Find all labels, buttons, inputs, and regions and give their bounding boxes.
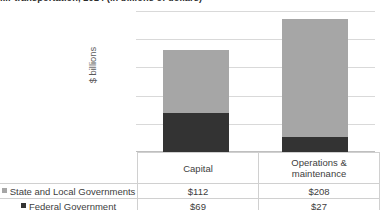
bar-2[interactable] [282, 19, 348, 152]
bar-segment[interactable] [163, 113, 229, 152]
data-table: CapitalOperations &maintenance State and… [0, 152, 380, 210]
bar-segment[interactable] [282, 19, 348, 136]
data-table-value-cell: $208 [259, 184, 380, 199]
legend-label: State and Local Governments [10, 186, 136, 197]
stacked-bar-chart: ...r transportation, 2014 (in billions o… [0, 0, 380, 210]
legend-entry[interactable]: Federal Government [0, 199, 138, 211]
column-header-line: Operations & [259, 157, 379, 168]
bar-1[interactable] [163, 50, 229, 152]
y-axis-title: $ billions [87, 35, 101, 95]
plot-area: $-$50$100$150$200$250 [136, 11, 375, 152]
data-table-corner-cell [0, 153, 138, 184]
data-table-row: State and Local Governments$112$208 [0, 184, 380, 199]
data-table-header-row: CapitalOperations &maintenance [0, 153, 380, 184]
legend-swatch-icon [2, 188, 7, 193]
column-header-line: maintenance [259, 168, 379, 179]
data-table-column-header: Operations &maintenance [259, 153, 380, 184]
data-table-column-header: Capital [138, 153, 259, 184]
bar-segment[interactable] [282, 137, 348, 152]
data-table-row: Federal Government$69$27 [0, 199, 380, 211]
data-table-value-cell: $69 [138, 199, 259, 211]
chart-title: ...r transportation, 2014 (in billions o… [0, 0, 380, 4]
data-table-value-cell: $112 [138, 184, 259, 199]
column-header-line: Capital [138, 163, 258, 174]
gridline [136, 11, 375, 12]
legend-entry[interactable]: State and Local Governments [0, 184, 138, 199]
data-table-body: CapitalOperations &maintenance State and… [0, 153, 380, 211]
data-table-value-cell: $27 [259, 199, 380, 211]
legend-label: Federal Government [29, 201, 116, 210]
bar-segment[interactable] [163, 50, 229, 113]
legend-swatch-icon [21, 203, 26, 208]
